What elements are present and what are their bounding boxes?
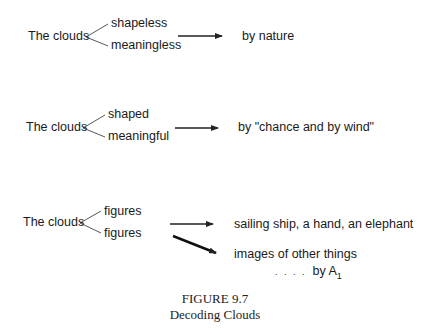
result-row-3-second: images of other things	[234, 248, 357, 261]
result-row-2: by "chance and by wind"	[238, 121, 374, 134]
branch-row-1-bottom: meaningless	[111, 39, 181, 52]
branch-lines-row-1	[86, 24, 108, 46]
result-row-3-first: sailing ship, a hand, an elephant	[234, 218, 413, 231]
branch-row-2-top: shaped	[108, 108, 149, 121]
figure-title: Decoding Clouds	[0, 308, 430, 321]
result-row-1: by nature	[242, 30, 294, 43]
attribution-subscript: 1	[337, 271, 342, 281]
figure-label: FIGURE 9.7	[0, 292, 430, 305]
branch-row-2-bottom: meaningful	[108, 130, 169, 143]
arrow-row-3b	[173, 236, 216, 253]
subject-row-1: The clouds	[28, 30, 89, 43]
branch-row-1-top: shapeless	[111, 17, 167, 30]
subject-row-3: The clouds	[23, 216, 84, 229]
branch-row-3-top: figures	[104, 205, 142, 218]
ellipsis-dots: . . . .	[275, 267, 307, 277]
branch-row-3-bottom: figures	[104, 227, 142, 240]
attribution: . . . .by A1	[275, 265, 342, 281]
subject-row-2: The clouds	[26, 121, 87, 134]
attribution-prefix: by A	[313, 264, 337, 278]
connector-lines	[0, 0, 430, 335]
